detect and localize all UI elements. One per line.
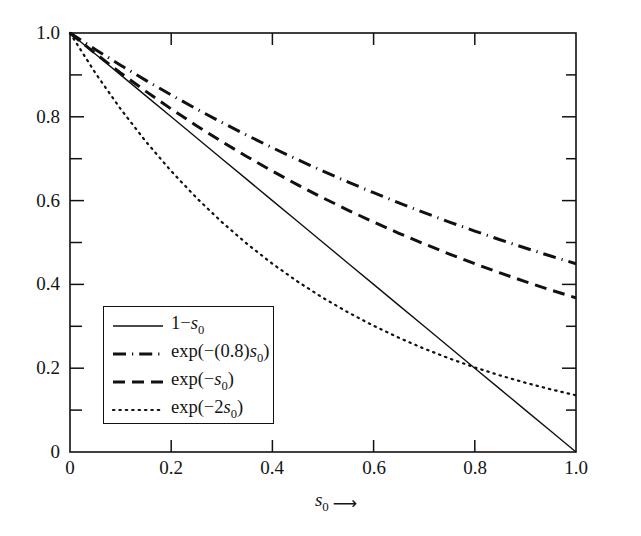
legend-line-sample-dashed bbox=[112, 375, 164, 389]
legend-entry-1[interactable]: exp(−(0.8)s0) bbox=[112, 339, 269, 368]
chart-background bbox=[0, 0, 641, 536]
legend-entry-0[interactable]: 1−s0 bbox=[112, 311, 204, 340]
y-tick-label-0.2: 0.2 bbox=[0, 357, 60, 379]
chart-legend: 1−s0exp(−(0.8)s0)exp(−s0)exp(−2s0) bbox=[103, 306, 274, 424]
legend-entry-2[interactable]: exp(−s0) bbox=[112, 367, 234, 396]
x-tick-label-0.2: 0.2 bbox=[146, 457, 196, 479]
x-tick-label-0.8: 0.8 bbox=[450, 457, 500, 479]
legend-line-sample-solid bbox=[112, 319, 164, 333]
legend-entry-3[interactable]: exp(−2s0) bbox=[112, 395, 243, 424]
legend-line-sample-dashdot bbox=[112, 347, 164, 361]
chart-figure bbox=[0, 0, 641, 536]
y-tick-label-0.6: 0.6 bbox=[0, 190, 60, 212]
x-axis-title-subscript: 0 bbox=[322, 499, 328, 514]
right-arrow-icon: ⟶ bbox=[333, 495, 357, 512]
legend-line-sample-dotted bbox=[112, 403, 164, 417]
y-tick-label-0.4: 0.4 bbox=[0, 273, 60, 295]
y-tick-label-0.8: 0.8 bbox=[0, 106, 60, 128]
x-axis-title: s0 ⟶ bbox=[281, 487, 391, 517]
legend-label-0: 1−s0 bbox=[171, 314, 204, 336]
y-tick-label-1.0: 1.0 bbox=[0, 22, 60, 44]
x-tick-label-0.4: 0.4 bbox=[247, 457, 297, 479]
x-axis-title-variable: s0 bbox=[315, 489, 329, 515]
x-tick-label-1.0: 1.0 bbox=[551, 457, 601, 479]
x-tick-label-0: 0 bbox=[45, 457, 95, 479]
legend-label-1: exp(−(0.8)s0) bbox=[171, 342, 269, 364]
x-tick-label-0.6: 0.6 bbox=[349, 457, 399, 479]
legend-label-2: exp(−s0) bbox=[171, 370, 234, 392]
legend-label-3: exp(−2s0) bbox=[171, 398, 243, 420]
